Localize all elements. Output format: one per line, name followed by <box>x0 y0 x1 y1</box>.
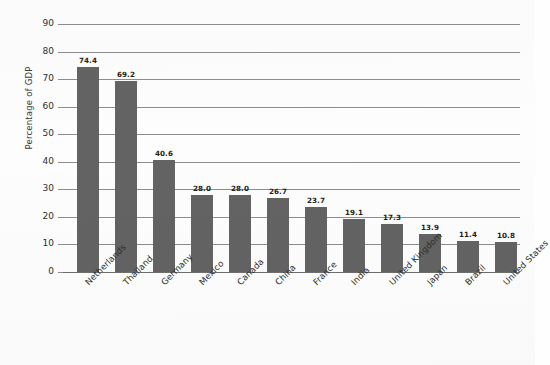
bar <box>267 198 289 272</box>
bar <box>343 219 365 272</box>
bar-value-label: 74.4 <box>66 56 110 65</box>
y-tick-label: 0 <box>18 266 54 276</box>
y-tick-40 <box>58 162 63 163</box>
gridline-80 <box>63 52 520 53</box>
bar-value-label: 10.8 <box>484 231 528 240</box>
y-tick-label: 90 <box>18 18 54 28</box>
y-tick-label: 20 <box>18 211 54 221</box>
y-tick-70 <box>58 79 63 80</box>
bar <box>191 195 213 272</box>
y-tick-label: 30 <box>18 183 54 193</box>
bar <box>77 67 99 272</box>
bar-value-label: 40.6 <box>142 149 186 158</box>
bar <box>153 160 175 272</box>
y-tick-label: 10 <box>18 238 54 248</box>
bar-value-label: 23.7 <box>294 196 338 205</box>
y-tick-60 <box>58 107 63 108</box>
y-tick-90 <box>58 24 63 25</box>
bar-value-label: 17.3 <box>370 213 414 222</box>
y-tick-30 <box>58 189 63 190</box>
y-tick-label: 50 <box>18 128 54 138</box>
bar-value-label: 69.2 <box>104 70 148 79</box>
plot-area: 0102030405060708090 74.469.240.628.028.0… <box>63 24 520 272</box>
y-tick-50 <box>58 134 63 135</box>
y-tick-80 <box>58 52 63 53</box>
y-tick-20 <box>58 217 63 218</box>
y-tick-label: 80 <box>18 46 54 56</box>
gridline-90 <box>63 24 520 25</box>
y-tick-label: 60 <box>18 101 54 111</box>
y-tick-10 <box>58 244 63 245</box>
y-tick-label: 70 <box>18 73 54 83</box>
y-tick-label: 40 <box>18 156 54 166</box>
bar <box>381 224 403 272</box>
bar <box>229 195 251 272</box>
bar <box>305 207 327 272</box>
y-tick-0 <box>58 272 63 273</box>
